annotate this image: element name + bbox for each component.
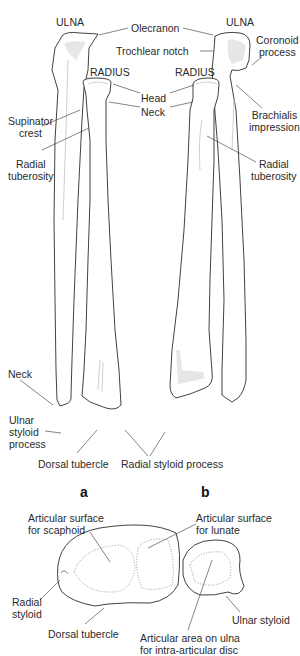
distal-view-bones [58,525,245,606]
label-head: Head [141,92,166,104]
label-olecranon: Olecranon [131,22,179,34]
label-neck-radius: Neck [141,106,165,118]
label-radius-a: RADIUS [90,66,130,78]
distal-ulna [183,540,244,595]
label-articular-lunate: Articular surfacefor lunate [196,512,272,536]
label-dorsal-tubercle-distal: Dorsal tubercle [48,628,119,640]
figure-a-bones [52,32,121,409]
radius-a [82,78,121,409]
distal-radius [58,525,180,606]
label-ulna-a: ULNA [56,16,84,28]
figure-b-bones [170,32,250,402]
label-articular-scaphoid: Articular surfacefor scaphoid [28,512,104,536]
label-supinator-crest: Supinatorcrest [8,115,53,139]
label-ulnar-styloid: Ulnar styloid [232,614,290,626]
label-ulna-b: ULNA [226,16,254,28]
label-brachialis-impression: Brachialisimpression [249,109,300,133]
label-dorsal-tubercle-a: Dorsal tubercle [38,458,109,470]
label-trochlear-notch: Trochlear notch [116,45,189,57]
label-radius-b: RADIUS [175,66,215,78]
label-radial-tuberosity-b: Radialtuberosity [251,158,297,182]
label-radial-tuberosity-a: Radialtuberosity [8,158,54,182]
label-intra-articular-disc: Articular area on ulnafor intra-articula… [140,632,240,656]
caption-b: b [201,484,210,500]
label-radial-styloid: Radialstyloid [12,596,42,620]
caption-a: a [80,484,88,500]
label-coronoid-process: Coronoidprocess [256,34,299,58]
label-ulnar-styloid-process: Ulnarstyloidprocess [9,414,46,450]
label-radial-styloid-process: Radial styloid process [121,458,223,470]
label-neck-ulna: Neck [8,368,32,380]
